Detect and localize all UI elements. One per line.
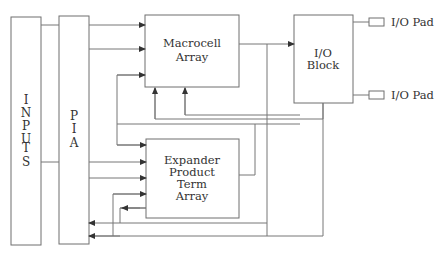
pia-letter: I bbox=[72, 122, 77, 136]
inputs-letter: P bbox=[22, 119, 30, 133]
inputs-letter: I bbox=[24, 93, 29, 107]
io-pad-bottom-label: I/O Pad bbox=[391, 88, 435, 102]
expander-array-block: Expander Product Term Array bbox=[146, 139, 239, 218]
inputs-letter: S bbox=[22, 155, 30, 169]
io-pad-bottom: I/O Pad bbox=[353, 88, 435, 102]
pia-to-expander-arrows bbox=[89, 162, 146, 178]
macrocell-array-block: Macrocell Array bbox=[145, 15, 239, 87]
inputs-letter: T bbox=[22, 141, 30, 155]
inputs-letter: N bbox=[21, 106, 32, 120]
expander-output-loop bbox=[239, 124, 255, 175]
pia-to-macrocell-arrows bbox=[89, 25, 145, 49]
macrocell-label-line1: Macrocell bbox=[163, 36, 221, 50]
io-pad-top: I/O Pad bbox=[353, 15, 435, 29]
inputs-to-pia-lines bbox=[41, 25, 59, 162]
pia-block: P I A bbox=[59, 16, 89, 244]
macrocell-label-line2: Array bbox=[175, 50, 209, 64]
io-block-label-line2: Block bbox=[307, 58, 340, 72]
pia-letter: P bbox=[70, 109, 78, 123]
lower-feedback-to-expander bbox=[113, 194, 146, 236]
expander-label-line4: Array bbox=[175, 189, 209, 203]
expander-self-feedback bbox=[120, 208, 146, 223]
pia-letter: A bbox=[69, 136, 79, 150]
macrocell-to-io-line bbox=[239, 44, 294, 236]
inputs-block: I N P U T S bbox=[11, 17, 41, 245]
io-block: I/O Block bbox=[294, 15, 353, 103]
architecture-diagram: I N P U T S P I A Macrocell Array Expand… bbox=[0, 0, 440, 256]
io-pad-top-label: I/O Pad bbox=[391, 15, 435, 29]
